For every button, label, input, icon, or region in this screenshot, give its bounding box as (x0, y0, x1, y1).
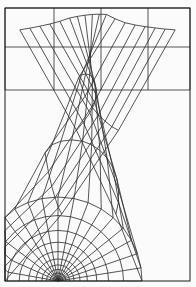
mesh-radial-ray (40, 26, 138, 281)
mesh-diagram-canvas (0, 0, 196, 287)
domain-boundary-rect (5, 8, 190, 281)
mesh-radial-ray (15, 23, 125, 281)
structured-grid-group (5, 8, 190, 90)
mesh-radial-ray (28, 19, 115, 281)
radial-ray-group (5, 14, 175, 281)
domain-boundary-frame (5, 8, 190, 281)
mesh-radial-ray (5, 25, 135, 281)
mesh-radial-ray (42, 14, 106, 281)
mesh-figure (0, 0, 196, 287)
